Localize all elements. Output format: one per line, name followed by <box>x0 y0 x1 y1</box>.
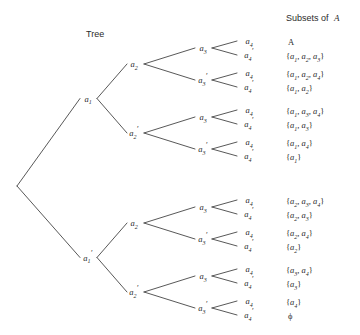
node-prime: ′ <box>137 284 139 293</box>
node-subscript: 2 <box>135 65 138 71</box>
tree-node-a2p: a2′ <box>129 125 139 140</box>
branch-level3-leaf <box>212 41 237 48</box>
subsets-header-set-symbol: A <box>333 13 340 23</box>
tree-node-a3: a3 <box>199 43 206 55</box>
subset-label: {a2, a3, a4} <box>286 196 324 208</box>
tree-node-a1: a1 <box>84 94 91 106</box>
branch-level3-leaf <box>212 142 237 149</box>
set-subset-binary-tree-figure: Tree Subsets of A a1a1′a2a2′a2a2′a3a3′a3… <box>0 0 360 335</box>
subset-label: {a1, a2, a4} <box>286 69 324 81</box>
branch-level2-level3 <box>144 64 195 80</box>
node-prime: ′ <box>206 141 208 150</box>
branch-level2-level3 <box>144 276 195 292</box>
tree-node-a3: a3 <box>199 112 206 124</box>
node-prime: ′ <box>252 47 254 56</box>
node-prime: ′ <box>252 275 254 284</box>
node-subscript: 1 <box>89 99 92 105</box>
node-subscript: 4 <box>249 88 252 94</box>
tree-node-a3p: a3′ <box>198 300 208 315</box>
tree-node-a2p: a2′ <box>129 284 139 299</box>
branch-level3-leaf <box>212 73 237 80</box>
tree-leaf-a4: a4′ <box>244 148 254 163</box>
branch-level3-leaf <box>212 232 237 239</box>
tree-node-a3p: a3′ <box>198 72 208 87</box>
tree-leaf-a4: a4′ <box>244 79 254 94</box>
branch-level3-leaf <box>212 308 237 315</box>
node-subscript: 3 <box>203 118 207 124</box>
subsets-header-text: Subsets of <box>286 13 329 23</box>
tree-node-a3: a3 <box>199 202 206 214</box>
branch-level2-level3 <box>144 48 195 64</box>
tree-node-labels: a1a1′a2a2′a2a2′a3a3′a3a3′a3a3′a3a3′a4a4′… <box>83 36 254 322</box>
branch-root-level1 <box>17 99 80 187</box>
node-prime: ′ <box>252 79 254 88</box>
node-subscript: 4 <box>249 56 252 62</box>
node-subscript: 1 <box>88 258 91 264</box>
node-subscript: 3 <box>203 277 207 283</box>
node-subscript: 4 <box>249 247 252 253</box>
node-prime: ′ <box>252 206 254 215</box>
subset-label: {a1, a4} <box>286 138 313 150</box>
branch-level3-leaf <box>212 269 237 276</box>
tree-node-a3: a3 <box>199 271 206 283</box>
subset-label: {a1} <box>286 152 301 164</box>
branch-level3-leaf <box>212 239 237 246</box>
node-prime: ′ <box>137 125 139 134</box>
tree-leaf-a4: a4′ <box>244 47 254 62</box>
tree-node-a1p: a1′ <box>83 249 93 264</box>
subset-labels-column: A{a1, a2, a3}{a1, a2, a4}{a1, a2}{a1, a3… <box>286 37 324 321</box>
branch-level2-level3 <box>144 292 195 308</box>
subset-label: {a1, a2, a3} <box>286 51 324 63</box>
node-prime: ′ <box>252 148 254 157</box>
subset-label: {a4} <box>286 297 301 309</box>
node-prime: ′ <box>206 72 208 81</box>
branch-level3-leaf <box>212 200 237 207</box>
subsets-header-label: Subsets of A <box>286 13 340 23</box>
tree-header-label: Tree <box>86 29 104 39</box>
tree-leaf-a4: a4′ <box>244 116 254 131</box>
tree-leaf-a4: a4′ <box>244 275 254 290</box>
tree-node-a2: a2 <box>130 218 137 230</box>
branch-level2-level3 <box>144 223 195 239</box>
branch-level3-leaf <box>212 80 237 87</box>
subset-label: {a2, a4} <box>286 228 313 240</box>
node-subscript: 3 <box>203 208 207 214</box>
node-subscript: 2 <box>134 134 137 140</box>
node-prime: ′ <box>91 249 93 258</box>
branch-level1-level2 <box>97 64 127 99</box>
node-subscript: 2 <box>134 293 137 299</box>
subset-label: {a1, a3, a4} <box>286 106 324 118</box>
node-subscript: 3 <box>203 49 207 55</box>
node-subscript: 3 <box>202 150 206 156</box>
subset-label: ϕ <box>288 311 293 321</box>
branch-root-level1 <box>17 186 80 258</box>
branch-level1-level2 <box>97 223 127 258</box>
node-subscript: 4 <box>249 316 252 322</box>
subset-label: {a1, a3} <box>286 120 313 132</box>
branch-level1-level2 <box>97 99 127 134</box>
node-subscript: 3 <box>202 240 206 246</box>
node-prime: ′ <box>252 307 254 316</box>
subset-label: {a1, a2} <box>286 83 313 95</box>
branch-level3-leaf <box>212 276 237 283</box>
tree-node-a3p: a3′ <box>198 141 208 156</box>
node-subscript: 4 <box>249 215 252 221</box>
tree-leaf-a4: a4′ <box>244 206 254 221</box>
branch-level3-leaf <box>212 207 237 214</box>
branch-level3-leaf <box>212 301 237 308</box>
branch-level2-level3 <box>144 117 195 133</box>
node-subscript: 4 <box>249 157 252 163</box>
subset-label: {a3, a4} <box>286 265 313 277</box>
subset-label: {a3} <box>286 279 301 291</box>
tree-leaf-a4: a4′ <box>244 307 254 322</box>
branch-level3-leaf <box>212 149 237 156</box>
tree-leaf-a4: a4′ <box>244 238 254 253</box>
branch-level1-level2 <box>97 258 127 293</box>
subset-label: {a2} <box>286 242 301 254</box>
branch-level2-level3 <box>144 207 195 223</box>
tree-node-a3p: a3′ <box>198 231 208 246</box>
node-subscript: 2 <box>135 224 138 230</box>
branch-level3-leaf <box>212 110 237 117</box>
branch-level2-level3 <box>144 133 195 149</box>
subset-label: A <box>288 37 295 47</box>
